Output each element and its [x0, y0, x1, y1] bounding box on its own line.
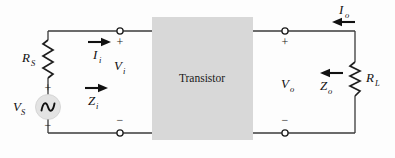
output-current-label: I o: [338, 2, 349, 20]
circuit-diagram-canvas: Transistor + − + − +: [0, 0, 395, 158]
output-current-arrow: [332, 18, 355, 26]
output-impedance-label-base: Z: [320, 78, 328, 93]
circuit-schematic: Transistor + − + − +: [0, 0, 395, 158]
source-resistor-label-base: R: [21, 50, 30, 65]
output-current-label-base: I: [338, 2, 344, 17]
output-top-terminal[interactable]: [282, 28, 288, 34]
output-impedance-arrow: [320, 69, 343, 77]
output-bottom-terminal[interactable]: [282, 130, 288, 136]
load-resistor-label: R L: [365, 70, 380, 88]
load-resistor-symbol: [350, 62, 360, 96]
load-resistor-label-base: R: [365, 70, 374, 85]
input-bottom-terminal[interactable]: [117, 130, 123, 136]
input-top-plus-sign: +: [117, 35, 124, 49]
output-impedance-label-sub: o: [328, 86, 332, 96]
source-resistor-label-sub: S: [31, 58, 36, 68]
input-top-terminal[interactable]: [117, 28, 123, 34]
input-current-arrow: [88, 38, 111, 46]
input-impedance-label-sub: i: [96, 101, 99, 111]
input-impedance-label: Z i: [88, 93, 99, 111]
input-current-label-sub: i: [99, 55, 102, 65]
output-bottom-minus-sign: −: [282, 113, 289, 127]
load-resistor-label-sub: L: [374, 78, 380, 88]
output-top-plus-sign: +: [282, 35, 289, 49]
input-current-label-base: I: [92, 47, 98, 62]
transistor-block-label: Transistor: [179, 72, 225, 84]
input-voltage-label-sub: i: [123, 66, 126, 76]
output-impedance-label: Z o: [320, 78, 332, 96]
output-voltage-label: V o: [281, 76, 294, 94]
input-bottom-minus-sign: −: [117, 113, 124, 127]
input-voltage-label: V i: [114, 58, 126, 76]
source-voltage-label: V S: [13, 99, 26, 117]
input-impedance-label-base: Z: [88, 93, 96, 108]
source-voltage-label-sub: S: [21, 107, 26, 117]
input-impedance-arrow: [85, 84, 108, 92]
output-current-label-sub: o: [345, 10, 349, 20]
source-plus-sign: +: [45, 81, 52, 95]
output-voltage-label-sub: o: [290, 84, 294, 94]
input-current-label: I i: [92, 47, 102, 65]
source-resistor-symbol: [43, 40, 53, 78]
source-minus-sign: −: [45, 118, 52, 132]
source-resistor-label: R S: [21, 50, 36, 68]
